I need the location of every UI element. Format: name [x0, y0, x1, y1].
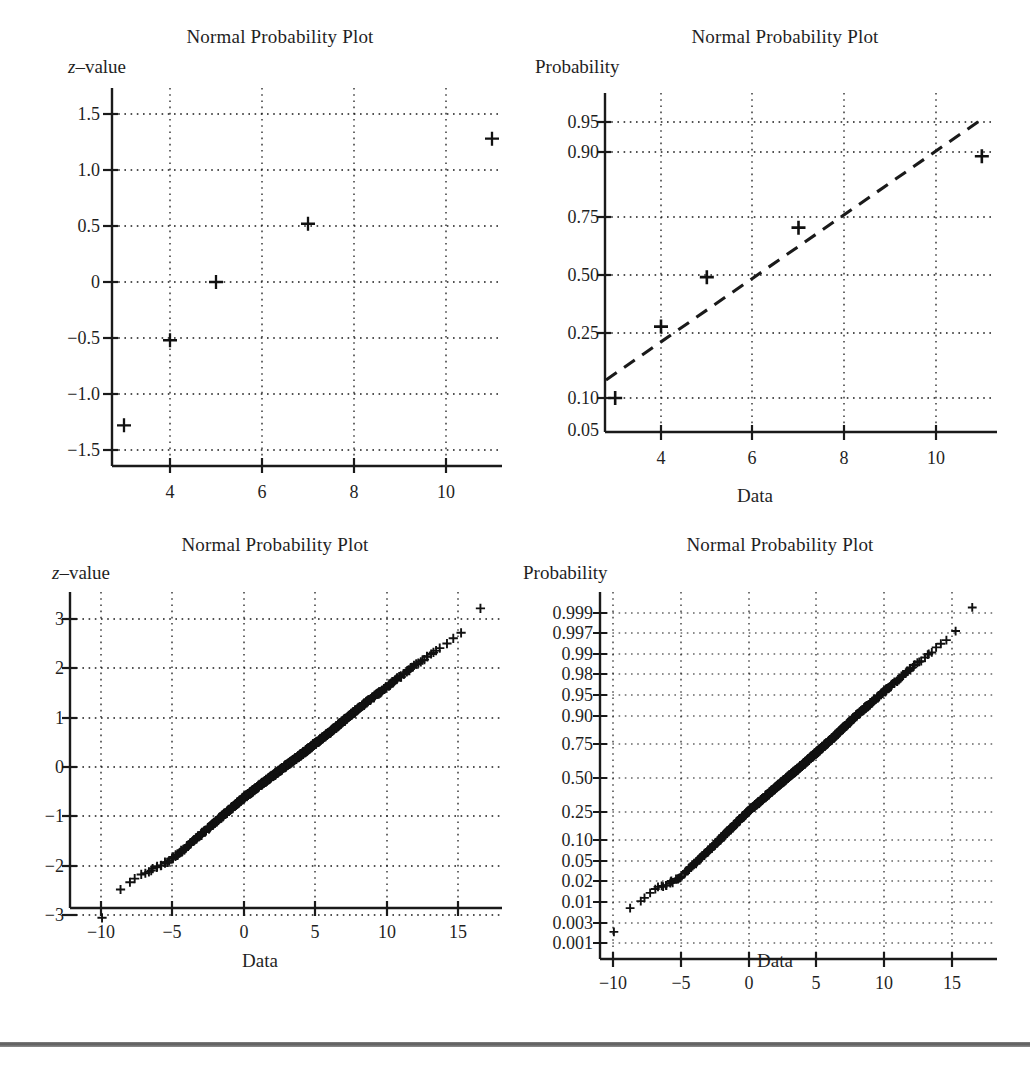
- panel-top-left: Normal Probability Plot z–value 1.5 1.0 …: [0, 0, 515, 520]
- page-edge-rule: [0, 1042, 1030, 1047]
- data-point-marker: [476, 604, 485, 613]
- plot-canvas-bottom-right: [515, 520, 1030, 1040]
- data-point-marker: [951, 627, 960, 636]
- axis-lines-top-left: [103, 88, 502, 473]
- reference-line-top-right: [606, 117, 985, 380]
- data-point-marker: [97, 913, 106, 922]
- axis-lines-bottom-left: [62, 592, 502, 916]
- grid-lines-bottom-left: [70, 592, 500, 915]
- grid-lines-top-right: [605, 93, 995, 432]
- data-point-marker: [700, 270, 714, 284]
- data-point-marker: [968, 603, 977, 612]
- panel-bottom-right: Normal Probability Plot Probability Data…: [515, 520, 1030, 1040]
- data-point-marker: [609, 927, 618, 936]
- data-point-marker: [163, 333, 177, 347]
- data-markers-top-right: [608, 149, 989, 405]
- data-point-marker: [209, 275, 223, 289]
- data-markers-bottom-right: [609, 603, 976, 936]
- plot-canvas-bottom-left: [0, 520, 515, 1040]
- data-point-marker: [792, 221, 806, 235]
- plot-canvas-top-right: [515, 0, 1030, 520]
- axis-lines-top-right: [597, 93, 997, 440]
- data-markers-bottom-left: [97, 604, 485, 923]
- plot-canvas-top-left: [0, 0, 515, 520]
- grid-lines-top-left: [112, 88, 500, 466]
- data-point-marker: [449, 634, 458, 643]
- data-point-marker: [626, 904, 635, 913]
- data-point-marker: [116, 885, 125, 894]
- data-point-marker: [117, 418, 131, 432]
- data-point-marker: [608, 391, 622, 405]
- data-point-marker: [654, 320, 668, 334]
- data-point-marker: [485, 132, 499, 146]
- panel-top-right: Normal Probability Plot Probability Data…: [515, 0, 1030, 520]
- data-point-marker: [301, 217, 315, 231]
- data-point-marker: [975, 149, 989, 163]
- panel-bottom-left: Normal Probability Plot z–value Data 3 2…: [0, 520, 515, 1040]
- data-point-marker: [442, 639, 451, 648]
